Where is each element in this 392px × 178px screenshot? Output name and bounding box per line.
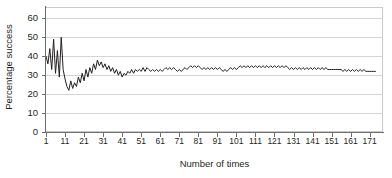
x-tick-label: 71 — [167, 136, 191, 146]
x-tick-mark — [46, 133, 47, 137]
x-tick-mark — [332, 133, 333, 137]
x-tick-mark — [84, 133, 85, 137]
y-tick-label: 30 — [16, 70, 38, 80]
x-tick-mark — [294, 133, 295, 137]
y-tick-label: 0 — [16, 127, 38, 137]
x-tick-mark — [351, 133, 352, 137]
x-tick-label: 11 — [53, 136, 77, 146]
y-axis-line — [45, 6, 46, 133]
x-tick-label: 121 — [262, 136, 286, 146]
x-tick-mark — [274, 133, 275, 137]
x-tick-mark — [103, 133, 104, 137]
x-axis-line — [46, 132, 384, 133]
x-tick-mark — [255, 133, 256, 137]
x-tick-mark — [198, 133, 199, 137]
series-line-chart — [46, 7, 383, 132]
x-tick-label: 171 — [358, 136, 382, 146]
x-tick-label: 91 — [205, 136, 229, 146]
y-tick-label: 20 — [16, 89, 38, 99]
x-tick-mark — [65, 133, 66, 137]
x-tick-label: 141 — [301, 136, 325, 146]
x-tick-label: 81 — [186, 136, 210, 146]
x-tick-mark — [370, 133, 371, 137]
x-tick-label: 1 — [34, 136, 58, 146]
x-tick-label: 41 — [110, 136, 134, 146]
plot-area — [46, 7, 383, 132]
x-tick-label: 111 — [243, 136, 267, 146]
x-tick-label: 21 — [72, 136, 96, 146]
y-tick-label: 50 — [16, 32, 38, 42]
x-tick-label: 131 — [282, 136, 306, 146]
x-tick-label: 51 — [129, 136, 153, 146]
x-axis-title: Number of times — [46, 158, 383, 169]
x-tick-label: 61 — [148, 136, 172, 146]
y-tick-label: 10 — [16, 108, 38, 118]
chart-figure: Percentage success 0102030405060 1112131… — [0, 0, 392, 178]
x-tick-label: 31 — [91, 136, 115, 146]
x-tick-mark — [179, 133, 180, 137]
y-axis-title: Percentage success — [2, 1, 16, 133]
x-tick-label: 161 — [339, 136, 363, 146]
x-tick-mark — [217, 133, 218, 137]
x-tick-mark — [313, 133, 314, 137]
x-tick-mark — [160, 133, 161, 137]
y-tick-label: 60 — [16, 13, 38, 23]
series-polyline — [46, 37, 375, 90]
x-tick-mark — [141, 133, 142, 137]
x-tick-mark — [236, 133, 237, 137]
x-tick-label: 151 — [320, 136, 344, 146]
x-tick-label: 101 — [224, 136, 248, 146]
x-tick-mark — [122, 133, 123, 137]
y-tick-label: 40 — [16, 51, 38, 61]
